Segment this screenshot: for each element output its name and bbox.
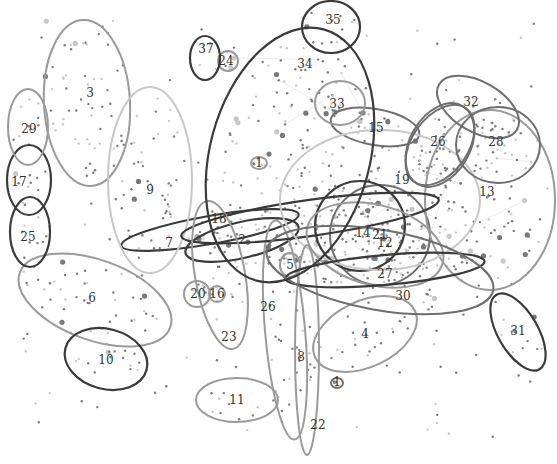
graph-node — [367, 354, 369, 356]
graph-edge — [497, 158, 531, 162]
graph-node — [350, 126, 352, 128]
graph-node — [279, 247, 284, 252]
graph-node — [202, 237, 204, 239]
graph-node — [62, 123, 64, 125]
cluster-label-29: 29 — [21, 122, 36, 136]
cluster-diagram: 1123456789101112131415161718192021222324… — [0, 0, 557, 464]
graph-node — [261, 214, 263, 216]
graph-node — [280, 133, 285, 138]
graph-node — [419, 154, 421, 156]
graph-node — [410, 207, 415, 212]
graph-node — [176, 131, 178, 133]
graph-node — [365, 87, 367, 89]
graph-node — [436, 414, 438, 416]
graph-node — [319, 215, 321, 217]
graph-node — [525, 155, 527, 157]
graph-node — [290, 105, 292, 107]
graph-node — [341, 28, 343, 30]
graph-node — [425, 152, 427, 154]
graph-node — [252, 414, 254, 416]
cluster-label-19: 19 — [394, 173, 409, 187]
graph-node — [495, 171, 497, 173]
graph-node — [298, 207, 300, 209]
graph-node — [169, 79, 171, 81]
graph-node — [45, 235, 47, 237]
graph-node — [307, 272, 309, 274]
cluster-label-3: 3 — [86, 86, 94, 100]
graph-node — [522, 198, 527, 203]
graph-node — [476, 145, 478, 147]
graph-node — [458, 79, 460, 81]
graph-node — [138, 361, 140, 363]
graph-node — [510, 185, 512, 187]
graph-node — [491, 162, 493, 164]
graph-node — [541, 347, 543, 349]
graph-node — [460, 132, 462, 134]
graph-node — [110, 115, 112, 117]
graph-node — [140, 151, 142, 153]
graph-node — [336, 349, 338, 351]
graph-node — [120, 140, 122, 142]
graph-node — [293, 198, 295, 200]
graph-node — [429, 295, 431, 297]
graph-node — [530, 85, 532, 87]
graph-node — [328, 165, 330, 167]
cluster-label-21: 21 — [372, 228, 387, 242]
graph-node — [86, 282, 88, 284]
cluster-label-2: 2 — [238, 233, 246, 247]
graph-node — [390, 251, 392, 253]
graph-node — [486, 167, 488, 169]
cluster-label-18: 18 — [211, 212, 226, 226]
graph-node — [393, 279, 395, 281]
graph-node — [321, 81, 323, 83]
graph-node — [510, 213, 512, 215]
cluster-label-27: 27 — [377, 267, 392, 281]
cluster-label-17: 17 — [11, 175, 26, 189]
graph-node — [302, 330, 304, 332]
graph-node — [50, 109, 52, 111]
graph-node — [133, 162, 135, 164]
graph-node — [235, 366, 237, 368]
graph-node — [263, 227, 265, 229]
graph-node — [150, 239, 152, 241]
graph-node — [380, 342, 382, 344]
graph-node — [344, 253, 346, 255]
graph-node — [394, 259, 396, 261]
cluster-label-16: 16 — [209, 287, 224, 301]
graph-node — [387, 119, 389, 121]
graph-node — [418, 239, 420, 241]
cluster-label-26: 26 — [430, 135, 445, 149]
graph-node — [226, 234, 228, 236]
graph-node — [492, 436, 494, 438]
graph-node — [438, 119, 440, 121]
graph-node — [257, 406, 259, 408]
graph-node — [473, 170, 475, 172]
graph-node — [121, 207, 123, 209]
graph-node — [448, 207, 450, 209]
graph-node — [358, 125, 360, 127]
cluster-ellipse-8 — [255, 219, 314, 442]
graph-node — [483, 119, 485, 121]
graph-node — [479, 167, 481, 169]
graph-node — [42, 241, 44, 243]
graph-node — [106, 89, 108, 91]
graph-node — [368, 243, 370, 245]
graph-node — [512, 351, 514, 353]
graph-node — [310, 223, 312, 225]
graph-node — [85, 167, 87, 169]
graph-node — [440, 172, 442, 174]
graph-edge — [480, 201, 525, 223]
graph-node — [137, 161, 139, 163]
graph-node — [49, 298, 51, 300]
graph-node — [323, 244, 325, 246]
graph-node — [327, 71, 329, 73]
graph-node — [168, 120, 170, 122]
graph-node — [122, 357, 124, 359]
graph-node — [248, 117, 250, 119]
graph-node — [427, 293, 429, 295]
graph-node — [230, 236, 232, 238]
graph-node — [23, 257, 25, 259]
graph-node — [123, 144, 125, 146]
graph-node — [98, 33, 100, 35]
graph-node — [197, 283, 199, 285]
